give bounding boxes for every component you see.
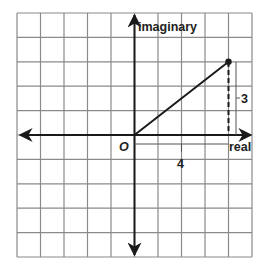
horizontal-length-bracket (135, 144, 229, 152)
real-axis-label: real (229, 140, 251, 154)
complex-plane-diagram: imaginary real O 4 3 (0, 0, 261, 270)
vertical-length-label: 3 (241, 92, 248, 106)
vertical-length-bracket (236, 62, 240, 135)
origin-label: O (119, 140, 129, 154)
imaginary-axis-label: imaginary (138, 20, 197, 34)
horizontal-length-label: 4 (177, 157, 184, 171)
